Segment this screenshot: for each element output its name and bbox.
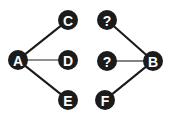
edge-f-b bbox=[112, 66, 147, 94]
node-f[interactable]: F bbox=[95, 90, 115, 110]
node-c[interactable]: C bbox=[58, 10, 78, 30]
edge-a-e bbox=[25, 65, 62, 94]
edge-a-c bbox=[25, 25, 62, 54]
node-b[interactable]: B bbox=[143, 51, 163, 71]
node-label: ? bbox=[103, 13, 112, 29]
node-unknown-q2[interactable]: ? bbox=[97, 51, 117, 71]
node-a[interactable]: A bbox=[8, 50, 28, 70]
node-label: E bbox=[63, 93, 72, 109]
node-unknown-q1[interactable]: ? bbox=[97, 10, 117, 30]
node-e[interactable]: E bbox=[58, 90, 78, 110]
edges-layer bbox=[25, 25, 147, 94]
node-label: F bbox=[101, 93, 110, 109]
node-label: B bbox=[148, 54, 158, 70]
node-d[interactable]: D bbox=[58, 50, 78, 70]
node-label: C bbox=[63, 13, 73, 29]
edge-q1-b bbox=[113, 26, 146, 56]
diagram-canvas: ACDE??FB bbox=[0, 0, 174, 126]
node-label: ? bbox=[103, 54, 112, 70]
node-label: A bbox=[13, 53, 23, 69]
graph-svg: ACDE??FB bbox=[0, 0, 174, 126]
node-label: D bbox=[63, 53, 73, 69]
